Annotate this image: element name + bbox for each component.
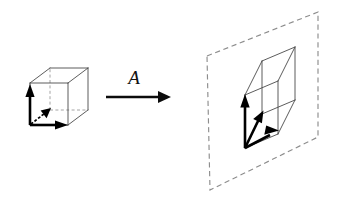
- Ae1-right-head: [264, 126, 279, 135]
- source-edge-7: [68, 68, 88, 83]
- linear-transformation-figure: A: [0, 0, 342, 201]
- transformation-arrow: A: [106, 67, 171, 103]
- figure-root: A: [0, 0, 342, 201]
- target-edge-2: [245, 81, 278, 95]
- source-unit-cube: [25, 68, 88, 130]
- target-edge-9: [278, 47, 295, 81]
- target-edge-4: [262, 100, 295, 114]
- source-edge-8: [68, 110, 88, 125]
- target-image-plane-group: [207, 12, 318, 190]
- map-arrow-head: [158, 91, 171, 103]
- Ae2-up-head: [240, 94, 249, 108]
- source-basis-vectors: [25, 84, 68, 130]
- source-vector-e2-up: [25, 84, 34, 125]
- e1-right-head: [55, 120, 68, 129]
- target-basis-vectors: [240, 94, 279, 148]
- e2-up-head: [25, 84, 34, 97]
- e3-depth-head: [41, 108, 51, 118]
- source-vector-e1-right: [30, 120, 68, 129]
- target-edge-10: [278, 100, 295, 134]
- transformation-label: A: [126, 67, 140, 88]
- source-cube-solid-edges: [30, 68, 88, 125]
- source-vector-e3-depth: [31, 108, 51, 124]
- source-edge-6: [30, 68, 50, 83]
- Ae3-diagonal-head: [253, 111, 263, 124]
- e3-depth-shaft: [31, 113, 45, 124]
- image-plane-border: [207, 12, 318, 190]
- target-edge-6: [262, 47, 295, 61]
- target-edge-8: [245, 61, 262, 95]
